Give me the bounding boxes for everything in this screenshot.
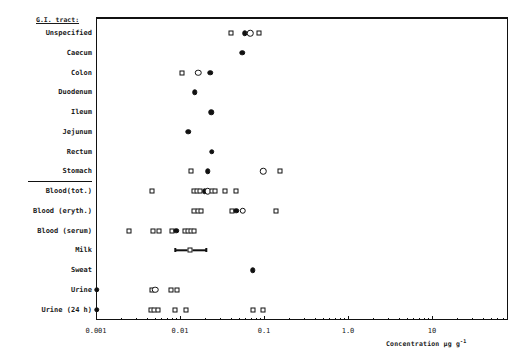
x-axis-minor-tick xyxy=(329,318,330,320)
x-axis-tick-label: 0.01 xyxy=(172,327,189,335)
data-point-open-square[interactable] xyxy=(155,307,160,312)
data-point-open-square[interactable] xyxy=(199,208,204,213)
x-axis-tick-label: 10 xyxy=(428,327,436,335)
category-label: Blood (eryth.) xyxy=(0,207,92,215)
data-point-open-square[interactable] xyxy=(222,189,227,194)
data-point-filled-circle[interactable] xyxy=(94,307,100,313)
x-axis-minor-tick xyxy=(344,318,345,320)
data-point-filled-circle[interactable] xyxy=(239,50,245,56)
data-point-open-square[interactable] xyxy=(261,307,266,312)
x-axis-minor-tick xyxy=(136,318,137,320)
category-label: Jejunum xyxy=(0,128,92,136)
data-point-open-square[interactable] xyxy=(127,228,132,233)
data-point-open-circle[interactable] xyxy=(195,69,202,76)
x-axis-minor-tick xyxy=(497,318,498,320)
x-axis-minor-tick xyxy=(335,318,336,320)
data-point-open-square[interactable] xyxy=(188,169,193,174)
x-axis-tick-label: 0.1 xyxy=(258,327,271,335)
x-axis-major-tick xyxy=(264,316,265,320)
error-bar-cap xyxy=(175,248,176,252)
data-point-open-square[interactable] xyxy=(277,169,282,174)
x-axis-major-tick xyxy=(432,316,433,320)
x-axis-minor-tick xyxy=(220,318,221,320)
data-point-filled-circle[interactable] xyxy=(173,228,179,234)
x-axis-minor-tick xyxy=(388,318,389,320)
data-point-open-square[interactable] xyxy=(150,189,155,194)
category-label: Urine xyxy=(0,286,92,294)
x-axis-minor-tick xyxy=(289,318,290,320)
x-axis-minor-tick xyxy=(413,318,414,320)
data-point-filled-circle[interactable] xyxy=(234,208,240,214)
x-axis-tick-label: 0.001 xyxy=(85,327,106,335)
data-point-filled-circle[interactable] xyxy=(208,70,214,76)
x-axis-minor-tick xyxy=(205,318,206,320)
x-axis-minor-tick xyxy=(304,318,305,320)
data-point-open-square[interactable] xyxy=(251,307,256,312)
data-point-open-square[interactable] xyxy=(151,228,156,233)
category-label: Rectum xyxy=(0,148,92,156)
x-axis-minor-tick xyxy=(323,318,324,320)
data-point-filled-circle[interactable] xyxy=(94,287,100,293)
x-axis-minor-tick xyxy=(172,318,173,320)
x-axis-title: Concentration µg g-1 xyxy=(386,338,466,348)
x-axis-major-tick xyxy=(180,316,181,320)
x-axis-minor-tick xyxy=(176,318,177,320)
data-point-open-circle[interactable] xyxy=(152,287,159,294)
data-point-filled-circle[interactable] xyxy=(185,129,191,135)
frame-top-edge xyxy=(97,18,507,19)
x-axis-minor-tick xyxy=(419,318,420,320)
x-axis-minor-tick xyxy=(424,318,425,320)
x-axis-minor-tick xyxy=(245,318,246,320)
data-point-open-square[interactable] xyxy=(175,287,180,292)
data-point-filled-circle[interactable] xyxy=(250,267,256,273)
category-label: Caecum xyxy=(0,49,92,57)
x-axis-minor-tick xyxy=(340,318,341,320)
category-label: Duodenum xyxy=(0,88,92,96)
x-axis-tick-label: 1.0 xyxy=(342,327,355,335)
plot-frame xyxy=(96,17,508,320)
x-axis-title-main: Concentration µg g xyxy=(386,340,460,348)
x-axis-minor-tick xyxy=(147,318,148,320)
x-axis-minor-tick xyxy=(251,318,252,320)
data-point-open-square[interactable] xyxy=(157,228,162,233)
data-point-filled-circle[interactable] xyxy=(192,90,198,96)
category-label: Sweat xyxy=(0,266,92,274)
data-point-open-square[interactable] xyxy=(188,248,193,253)
x-axis-minor-tick xyxy=(428,318,429,320)
category-label: Unspecified xyxy=(0,29,92,37)
data-point-open-square[interactable] xyxy=(191,228,196,233)
data-point-open-circle[interactable] xyxy=(260,168,267,175)
category-label: Urine (24 h) xyxy=(0,306,92,314)
x-axis-title-exponent: -1 xyxy=(460,338,466,344)
data-point-open-square[interactable] xyxy=(274,208,279,213)
x-axis-minor-tick xyxy=(491,318,492,320)
data-point-filled-circle[interactable] xyxy=(208,109,214,115)
category-label: Milk xyxy=(0,246,92,254)
x-axis-minor-tick xyxy=(239,318,240,320)
data-point-open-circle[interactable] xyxy=(240,208,247,215)
group-header-gi-tract: G.I. tract: xyxy=(36,16,79,24)
category-group-separator xyxy=(28,181,92,182)
x-axis-minor-tick xyxy=(167,318,168,320)
x-axis-minor-tick xyxy=(503,318,504,320)
x-axis-minor-tick xyxy=(399,318,400,320)
x-axis-minor-tick xyxy=(472,318,473,320)
x-axis-major-tick xyxy=(96,316,97,320)
data-point-open-square[interactable] xyxy=(172,307,177,312)
data-point-open-square[interactable] xyxy=(257,31,262,36)
x-axis-minor-tick xyxy=(457,318,458,320)
data-point-open-square[interactable] xyxy=(169,287,174,292)
data-point-filled-circle[interactable] xyxy=(205,169,211,175)
data-point-open-square[interactable] xyxy=(212,189,217,194)
data-point-open-square[interactable] xyxy=(233,189,238,194)
data-point-open-square[interactable] xyxy=(184,307,189,312)
data-point-open-circle[interactable] xyxy=(247,30,254,37)
data-point-filled-circle[interactable] xyxy=(209,149,215,155)
x-axis-minor-tick xyxy=(155,318,156,320)
category-label: Blood(tot.) xyxy=(0,187,92,195)
data-point-open-square[interactable] xyxy=(228,31,233,36)
category-label: Blood (serum) xyxy=(0,227,92,235)
x-axis-minor-tick xyxy=(121,318,122,320)
x-axis-minor-tick xyxy=(161,318,162,320)
data-point-open-square[interactable] xyxy=(179,70,184,75)
